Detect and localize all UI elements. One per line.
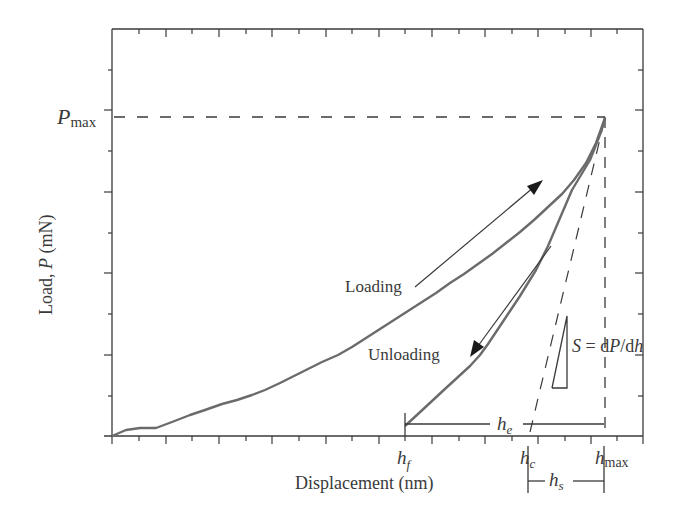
hc-label: hc bbox=[520, 447, 536, 471]
hs-label: hs bbox=[549, 469, 564, 493]
loading-label: Loading bbox=[345, 277, 402, 296]
load-displacement-figure: Pmax Loading Unloading S = dP/dh he hf h… bbox=[0, 0, 686, 517]
unloading-label: Unloading bbox=[368, 345, 440, 364]
left-axis-ticks bbox=[104, 70, 112, 396]
plot-frame bbox=[104, 29, 643, 436]
y-axis-title: Load, P (mN) bbox=[36, 215, 57, 315]
hs-span bbox=[528, 446, 604, 493]
bottom-axis-ticks bbox=[112, 436, 643, 444]
hf-label: hf bbox=[397, 447, 413, 472]
top-axis-ticks bbox=[139, 29, 617, 37]
stiffness-equation: S = dP/dh bbox=[572, 336, 643, 356]
unloading-arrow bbox=[470, 246, 551, 357]
hmax-label: hmax bbox=[595, 447, 629, 470]
he-label: he bbox=[497, 413, 513, 437]
slope-triangle bbox=[552, 316, 567, 388]
loading-arrow bbox=[415, 180, 543, 287]
chart-svg: Pmax Loading Unloading S = dP/dh he hf h… bbox=[0, 0, 686, 517]
unloading-curve bbox=[405, 118, 605, 426]
x-axis-title: Displacement (nm) bbox=[295, 473, 433, 494]
pmax-label: Pmax bbox=[56, 104, 97, 130]
